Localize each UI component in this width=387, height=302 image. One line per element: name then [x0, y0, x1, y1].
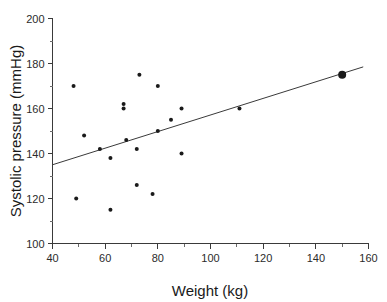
x-tick-label-100: 100 — [201, 252, 219, 264]
plot-canvas: 100120140160180200 406080100120140160 We… — [0, 0, 387, 302]
data-point-observations — [122, 102, 126, 106]
data-point-observations — [108, 208, 112, 212]
y-axis-tick-labels: 100120140160180200 — [26, 13, 44, 250]
y-axis-title: Systolic pressure (mmHg) — [7, 45, 24, 218]
x-tick-label-140: 140 — [307, 252, 325, 264]
data-point-observations — [98, 147, 102, 151]
x-tick-label-160: 160 — [359, 252, 377, 264]
x-tick-label-80: 80 — [152, 252, 164, 264]
x-axis-title: Weight (kg) — [172, 282, 248, 299]
x-tick-label-40: 40 — [46, 252, 58, 264]
x-tick-label-120: 120 — [254, 252, 272, 264]
x-axis-major-ticks — [53, 244, 369, 249]
data-point-observations — [169, 118, 173, 122]
y-axis: 100120140160180200 — [26, 13, 52, 250]
data-point-observations — [137, 73, 141, 77]
data-point-observations — [72, 84, 76, 88]
y-tick-label-140: 140 — [26, 148, 44, 160]
y-tick-label-180: 180 — [26, 58, 44, 70]
data-point-observations — [74, 197, 78, 201]
data-point-observations — [151, 192, 155, 196]
scatter-plot-figure: 100120140160180200 406080100120140160 We… — [0, 0, 387, 302]
x-tick-label-60: 60 — [99, 252, 111, 264]
y-tick-label-160: 160 — [26, 103, 44, 115]
data-point-observations — [180, 107, 184, 111]
data-point-observations — [135, 183, 139, 187]
data-point-observations — [124, 138, 128, 142]
data-point-observations — [156, 84, 160, 88]
data-point-observations — [82, 134, 86, 138]
data-point-observations — [122, 107, 126, 111]
data-point-observations — [180, 152, 184, 156]
data-point-observations — [108, 156, 112, 160]
x-axis: 406080100120140160 — [46, 244, 377, 264]
data-point-observations — [237, 107, 241, 111]
y-tick-label-200: 200 — [26, 13, 44, 25]
data-point-observations — [156, 129, 160, 133]
data-points — [72, 71, 347, 212]
data-point-highlighted-observation — [338, 71, 346, 79]
y-tick-label-100: 100 — [26, 238, 44, 250]
x-axis-tick-labels: 406080100120140160 — [46, 252, 377, 264]
y-tick-label-120: 120 — [26, 193, 44, 205]
data-point-observations — [135, 147, 139, 151]
